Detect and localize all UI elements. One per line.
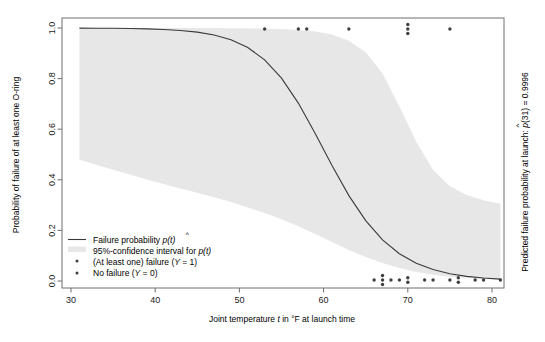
data-point [381,274,384,277]
data-point [347,27,350,30]
x-tick-label: 50 [234,295,244,305]
chart-legend: Failure probability p(t) 95%-confidence … [68,231,211,279]
y-axis-title: Probability of failure of at least one O… [11,77,21,234]
x-axis-title-suffix: in °F at launch time [280,314,355,324]
chart-container: 304050607080 0.00.20.40.60.81.0 Probabil… [0,0,545,342]
y-axis-ticks: 0.00.20.40.60.81.0 [47,22,62,288]
data-point [372,278,375,281]
data-point [482,278,485,281]
data-point [473,278,476,281]
x-tick-label: 60 [319,295,329,305]
data-point [305,27,308,30]
legend-label-confidence-interval: 95%-confidence interval for p(t) [93,246,211,256]
data-point [381,278,384,281]
oring-failure-probability-chart: 304050607080 0.00.20.40.60.81.0 Probabil… [0,0,545,342]
data-point [297,27,300,30]
right-axis-annotation: Predicted failure probability at launch:… [514,72,530,272]
legend-swatch-marker [68,247,86,253]
data-point [423,278,426,281]
data-point [457,281,460,284]
data-point [406,27,409,30]
right-annotation-hat-accent: ^ [514,123,523,127]
legend-dot-marker-nofailure [76,272,79,275]
data-point [499,278,502,281]
x-axis-title-prefix: Joint temperature [209,314,278,324]
data-point [406,32,409,35]
x-tick-label: 40 [150,295,160,305]
data-point [431,278,434,281]
x-axis-title: Joint temperature t in °F at launch time [209,314,355,324]
data-point [263,27,266,30]
data-point [398,278,401,281]
x-tick-label: 80 [487,295,497,305]
data-point [406,23,409,26]
data-point [448,27,451,30]
data-point [448,278,451,281]
legend-phat-accent: ^ [186,231,190,238]
y-tick-label: 0.6 [47,123,57,136]
y-tick-label: 1.0 [47,22,57,35]
legend-label-fitted-curve: Failure probability p(t) [93,235,175,245]
data-point [381,283,384,286]
data-point [406,281,409,284]
y-tick-label: 0.4 [47,174,57,187]
data-point [457,276,460,279]
data-point [406,276,409,279]
legend-dot-marker-failure [76,260,79,263]
y-tick-label: 0.8 [47,72,57,85]
x-axis-ticks: 304050607080 [66,288,497,305]
y-tick-label: 0.0 [47,275,57,288]
legend-label-failure-points: (At least one) failure (Y = 1) [93,257,197,267]
legend-label-nofailure-points: No failure (Y = 0) [93,268,158,278]
y-tick-label: 0.2 [47,224,57,237]
right-annotation-prefix: Predicted failure probability at launch: [520,128,530,272]
data-point [389,278,392,281]
right-axis-annotation-text: Predicted failure probability at launch:… [520,72,530,272]
right-annotation-suffix: (31) = 0.9996 [520,72,530,123]
x-tick-label: 70 [403,295,413,305]
x-tick-label: 30 [66,295,76,305]
